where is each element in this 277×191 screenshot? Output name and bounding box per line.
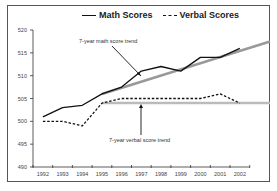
line-chart: 4904955005055105155201992199319941995199… bbox=[0, 0, 277, 191]
x-tick-label: 1997 bbox=[135, 171, 147, 177]
chart-annotations: 7-year math score trend 7-year verbal sc… bbox=[79, 38, 170, 143]
x-tick-label: 2002 bbox=[234, 171, 246, 177]
trend-lines bbox=[102, 41, 270, 103]
y-tick-label: 500 bbox=[18, 118, 27, 124]
x-tick-label: 1996 bbox=[116, 171, 128, 177]
verbal-trend-annotation: 7-year verbal score trend bbox=[109, 137, 170, 143]
y-tick-label: 490 bbox=[18, 164, 27, 170]
x-tick-label: 1992 bbox=[37, 171, 49, 177]
y-tick-label: 515 bbox=[18, 50, 27, 56]
x-tick-label: 1995 bbox=[96, 171, 108, 177]
y-tick-label: 520 bbox=[18, 27, 27, 33]
y-tick-label: 495 bbox=[18, 141, 27, 147]
x-tick-label: 1994 bbox=[76, 171, 88, 177]
x-tick-label: 2000 bbox=[194, 171, 206, 177]
x-tick-label: 1993 bbox=[56, 171, 68, 177]
x-tick-label: 2001 bbox=[214, 171, 226, 177]
y-tick-label: 510 bbox=[18, 73, 27, 79]
y-tick-label: 505 bbox=[18, 96, 27, 102]
verbal-trend-arrowhead-icon bbox=[139, 104, 143, 108]
x-tick-label: 1998 bbox=[155, 171, 167, 177]
x-tick-label: 1999 bbox=[175, 171, 187, 177]
math-trend-arrow-icon bbox=[112, 46, 141, 76]
math-trend-annotation: 7-year math score trend bbox=[79, 38, 137, 44]
